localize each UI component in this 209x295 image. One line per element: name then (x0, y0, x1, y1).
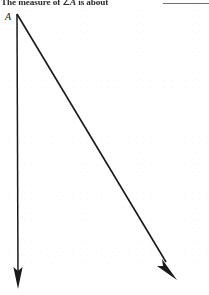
worksheet-figure: The measure of ∠A is about A (0, 0, 209, 295)
diagonal-ray-arrowhead (157, 259, 177, 280)
vertical-ray (17, 14, 18, 276)
diagonal-ray (17, 14, 166, 262)
angle-diagram (0, 0, 209, 295)
ray-group (13, 14, 177, 289)
